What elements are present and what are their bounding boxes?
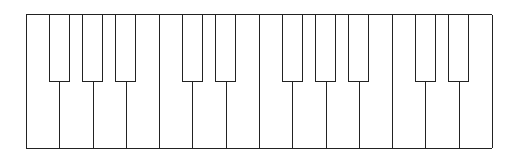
black-key-f-sharp[interactable] — [282, 15, 303, 82]
black-key-a-sharp[interactable] — [115, 15, 136, 82]
black-key-g-sharp[interactable] — [315, 15, 336, 82]
piano-keyboard — [26, 14, 492, 149]
black-key-c-sharp[interactable] — [182, 15, 203, 82]
black-key-d-sharp[interactable] — [215, 15, 236, 82]
black-key-c-sharp[interactable] — [415, 15, 436, 82]
black-key-f-sharp[interactable] — [49, 15, 70, 82]
black-key-a-sharp[interactable] — [348, 15, 369, 82]
black-key-g-sharp[interactable] — [82, 15, 103, 82]
black-key-d-sharp[interactable] — [448, 15, 469, 82]
